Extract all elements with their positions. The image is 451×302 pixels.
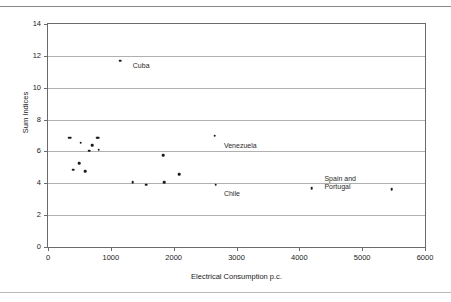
point-annotation-cuba: Cuba [133, 61, 150, 70]
x-axis-tick-label: 3000 [228, 254, 245, 262]
data-point [214, 184, 217, 187]
plot-area: 024681012140100020003000400050006000Cuba… [47, 23, 426, 248]
x-axis-tick-mark [174, 247, 175, 251]
data-point [119, 59, 122, 62]
page-canvas: 024681012140100020003000400050006000Cuba… [0, 0, 451, 302]
x-axis-tick-label: 6000 [417, 254, 434, 262]
x-axis-tick-mark [362, 247, 363, 251]
x-axis-tick-mark [111, 247, 112, 251]
data-point [145, 183, 148, 186]
y-axis-tick-mark [44, 215, 48, 216]
y-axis-tick-mark [44, 24, 48, 25]
y-axis-tick-mark [44, 120, 48, 121]
x-axis-tick-label: 2000 [165, 254, 182, 262]
x-axis-tick-mark [425, 247, 426, 251]
data-point [178, 173, 181, 176]
data-point [311, 187, 314, 190]
y-axis-tick-mark [44, 56, 48, 57]
gridline-horizontal [48, 88, 425, 89]
y-axis-tick-label: 10 [33, 84, 41, 92]
x-axis-tick-mark [299, 247, 300, 251]
data-point [72, 168, 75, 171]
data-point [84, 170, 87, 173]
y-axis-tick-label: 4 [37, 180, 41, 188]
y-axis-tick-label: 12 [33, 52, 41, 60]
data-point [91, 144, 94, 147]
x-axis-tick-label: 1000 [102, 254, 119, 262]
x-axis-tick-mark [48, 247, 49, 251]
point-annotation-venezuela: Venezuela [224, 141, 257, 150]
y-axis-tick-label: 0 [37, 243, 41, 251]
gridline-horizontal [48, 151, 425, 152]
y-axis-tick-mark [44, 151, 48, 152]
y-axis-tick-mark [44, 88, 48, 89]
x-axis-tick-label: 4000 [291, 254, 308, 262]
data-point [390, 188, 393, 191]
point-annotation-portugal: Portugal [324, 183, 350, 192]
y-axis-title: Sum Indices [21, 68, 30, 158]
y-axis-tick-label: 2 [37, 211, 41, 219]
x-axis-tick-mark [237, 247, 238, 251]
data-point [162, 154, 165, 157]
data-point [69, 137, 72, 140]
gridline-horizontal [48, 120, 425, 121]
y-axis-tick-label: 6 [37, 148, 41, 156]
scatter-chart: 024681012140100020003000400050006000Cuba… [0, 0, 451, 302]
x-axis-tick-label: 5000 [354, 254, 371, 262]
x-axis-title: Electrical Consumption p.c. [47, 272, 426, 281]
y-axis-tick-label: 8 [37, 116, 41, 124]
y-axis-tick-mark [44, 183, 48, 184]
x-axis-tick-label: 0 [46, 254, 50, 262]
gridline-horizontal [48, 215, 425, 216]
data-point [163, 181, 166, 184]
gridline-horizontal [48, 56, 425, 57]
data-point [132, 181, 135, 184]
data-point [88, 149, 91, 152]
data-point [78, 162, 81, 165]
point-annotation-chile: Chile [224, 190, 240, 199]
y-axis-tick-label: 14 [33, 20, 41, 28]
gridline-horizontal [48, 183, 425, 184]
data-point [97, 137, 100, 140]
data-point [79, 141, 82, 144]
data-point [213, 135, 216, 138]
data-point [98, 149, 101, 152]
